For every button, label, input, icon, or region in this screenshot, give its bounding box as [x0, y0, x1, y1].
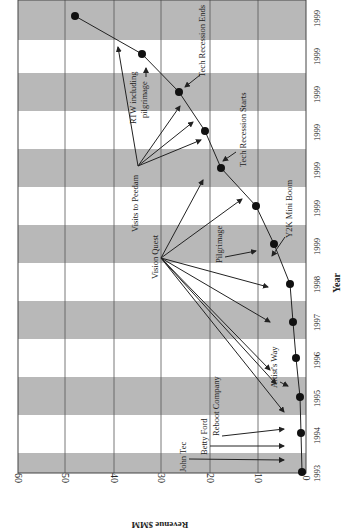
year-tick: 1996: [312, 352, 322, 369]
data-point: [289, 318, 297, 326]
data-point: [286, 280, 294, 288]
y-axis-title: Revenue $MM: [131, 520, 188, 530]
annotation-rtw-line1: RTW including: [128, 71, 138, 124]
year-tick: 1995: [312, 390, 322, 407]
revenue-chart: John Tec Betty Ford Reboot Company Artis…: [0, 0, 348, 532]
data-point: [217, 164, 225, 172]
data-point: [292, 354, 300, 362]
revenue-tick: 10: [253, 473, 264, 483]
x-axis-title: Year: [331, 272, 342, 293]
annotation-visits-to-peedam: Visits to Peedam: [130, 175, 140, 232]
annotation-tech-recession-ends: Tech Recession Ends: [197, 5, 207, 77]
annotation-pilgrimage: Pilgrimage: [214, 225, 224, 263]
plot-area: [18, 0, 306, 473]
data-point: [138, 50, 146, 58]
data-point: [252, 202, 260, 210]
year-tick: 1999: [312, 238, 322, 255]
year-tick: 1999: [312, 48, 322, 65]
revenue-tick: 0: [301, 476, 312, 481]
revenue-tick: 40: [109, 473, 120, 483]
year-tick: 1999: [312, 200, 322, 217]
annotation-y2k-mini-boom: Y2K Mini Boom: [284, 180, 294, 238]
year-tick-labels: 1993 1994 1995 1996 1997 1998 1999 1999 …: [312, 10, 322, 482]
annotation-betty-ford: Betty Ford: [199, 418, 209, 455]
year-tick: 1999: [312, 124, 322, 141]
annotation-artists-way: Artist's Way: [269, 346, 279, 388]
revenue-tick: 20: [205, 473, 216, 483]
revenue-tick-labels: 0 10 20 30 40 50 60: [13, 473, 312, 483]
annotation-vision-quest: Vision Quest: [150, 234, 160, 279]
year-tick: 1999: [312, 10, 322, 27]
data-point: [270, 240, 278, 248]
revenue-tick: 50: [60, 473, 71, 483]
revenue-tick: 30: [156, 473, 167, 483]
year-tick: 1993: [312, 465, 322, 482]
annotation-tech-recession-starts: Tech Recession Starts: [238, 93, 248, 167]
annotation-rtw-line2: pilgrimage: [139, 81, 149, 118]
data-point: [175, 88, 183, 96]
data-point: [297, 429, 305, 437]
annotation-john-tec: John Tec: [178, 442, 188, 472]
year-tick: 1999: [312, 86, 322, 103]
revenue-tick: 60: [13, 473, 24, 483]
data-point: [71, 12, 79, 20]
year-tick: 1997: [312, 314, 322, 331]
data-point: [201, 127, 209, 135]
year-tick: 1994: [312, 426, 322, 444]
year-tick: 1999: [312, 162, 322, 179]
year-tick: 1998: [312, 276, 322, 293]
annotation-reboot-company: Reboot Company: [211, 376, 221, 436]
data-point: [296, 393, 304, 401]
